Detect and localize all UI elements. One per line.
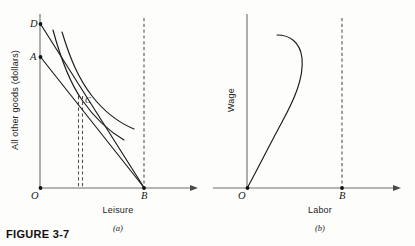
panel-b-x-axis-arrow-icon bbox=[393, 185, 401, 191]
panel-b-point-O-label: O bbox=[238, 190, 246, 201]
figure-container: D A O B C All other goods (dollars) Leis… bbox=[0, 0, 415, 246]
panel-a-point-A-label: A bbox=[29, 51, 37, 62]
panel-a-y-axis-title: All other goods (dollars) bbox=[10, 50, 20, 150]
panel-a-budget-line-A bbox=[41, 57, 145, 188]
panel-b-x-axis-title: Labor bbox=[308, 205, 332, 215]
panel-b-y-axis-title: Wage bbox=[226, 88, 236, 112]
panel-b-point-O-dot bbox=[246, 186, 250, 190]
panel-a-point-B-label: B bbox=[141, 190, 148, 201]
panel-b: O B Wage Labor (b) bbox=[213, 14, 401, 233]
panel-a: D A O B C All other goods (dollars) Leis… bbox=[10, 14, 198, 233]
panel-b-panel-label: (b) bbox=[315, 223, 325, 233]
panel-a-indifference-curve-upper bbox=[53, 30, 124, 140]
panel-a-budget-line-D bbox=[41, 24, 145, 188]
panel-a-x-axis-arrow-icon bbox=[190, 185, 198, 191]
figure-caption: FIGURE 3-7 bbox=[6, 228, 70, 240]
panel-b-point-B-label: B bbox=[339, 190, 346, 201]
panel-a-point-D-label: D bbox=[29, 18, 38, 29]
panel-a-point-O-label: O bbox=[31, 190, 39, 201]
panel-a-panel-label: (a) bbox=[113, 223, 123, 233]
panel-a-point-C-label: C bbox=[85, 95, 91, 105]
panel-b-labor-supply-curve bbox=[248, 35, 303, 188]
panel-a-point-O-dot bbox=[39, 186, 43, 190]
panel-a-point-A-dot bbox=[39, 55, 43, 59]
panel-a-point-D-dot bbox=[39, 22, 43, 26]
figure-canvas: D A O B C All other goods (dollars) Leis… bbox=[0, 0, 415, 246]
panel-a-x-axis-title: Leisure bbox=[103, 205, 134, 215]
